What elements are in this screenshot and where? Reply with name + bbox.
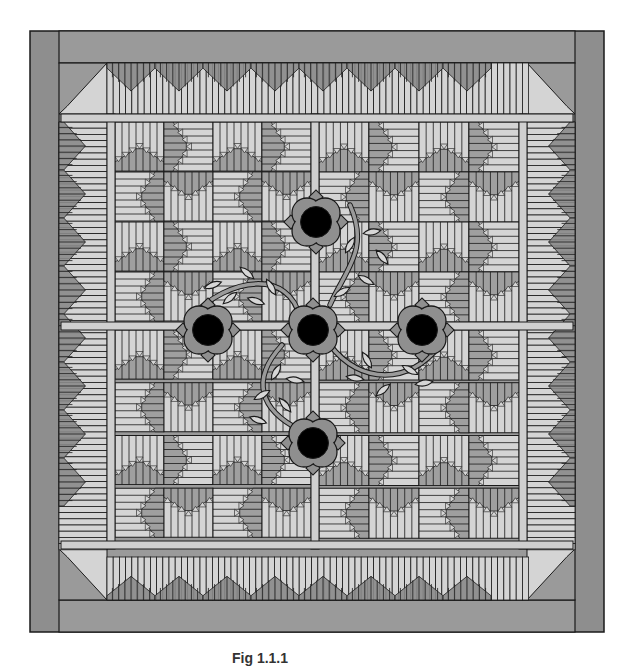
log-cabin-block <box>164 172 213 221</box>
flower-center <box>193 315 224 346</box>
log-cabin-block <box>319 122 369 172</box>
log-cabin-block <box>115 436 164 485</box>
log-cabin-block <box>213 172 262 221</box>
log-cabin-block <box>369 383 419 433</box>
flower-center <box>301 207 332 238</box>
log-cabin-block <box>164 436 213 485</box>
log-cabin-block <box>213 383 262 432</box>
log-cabin-block <box>469 488 519 538</box>
log-cabin-block <box>319 488 369 538</box>
log-cabin-block <box>369 122 419 172</box>
log-cabin-block <box>469 222 519 272</box>
log-cabin-block <box>213 222 262 271</box>
log-cabin-block <box>164 222 213 271</box>
log-cabin-block <box>419 436 469 486</box>
log-cabin-block <box>262 488 311 537</box>
log-cabin-block <box>419 122 469 172</box>
log-cabin-block <box>213 122 262 171</box>
log-cabin-block <box>419 222 469 272</box>
log-cabin-block <box>469 172 519 222</box>
flower-center <box>298 428 329 459</box>
log-cabin-block <box>469 436 519 486</box>
log-cabin-block <box>369 172 419 222</box>
log-cabin-block <box>115 222 164 271</box>
figure-caption: Fig 1.1.1 <box>232 650 288 666</box>
border-strip-top <box>59 31 575 63</box>
log-cabin-block <box>164 383 213 432</box>
log-cabin-block <box>469 122 519 172</box>
flower-center <box>407 315 438 346</box>
sashing-horizontal <box>61 114 573 122</box>
log-cabin-block <box>419 383 469 433</box>
border-strip-bottom <box>59 600 575 632</box>
log-cabin-block <box>262 122 311 171</box>
log-cabin-block <box>213 436 262 485</box>
log-cabin-block <box>369 436 419 486</box>
log-cabin-block <box>164 488 213 537</box>
log-cabin-block <box>469 330 519 380</box>
log-cabin-block <box>419 488 469 538</box>
log-cabin-block <box>115 122 164 171</box>
sashing-horizontal <box>61 541 573 549</box>
log-cabin-block <box>115 330 164 379</box>
log-cabin-block <box>115 383 164 432</box>
log-cabin-block <box>115 272 164 321</box>
log-cabin-block <box>469 383 519 433</box>
log-cabin-block <box>419 172 469 222</box>
log-cabin-block <box>164 122 213 171</box>
flower-center <box>298 315 329 346</box>
log-cabin-block <box>369 488 419 538</box>
sashing-vertical <box>519 114 527 549</box>
sashing-vertical <box>107 114 115 549</box>
log-cabin-block <box>115 172 164 221</box>
log-cabin-block <box>469 272 519 322</box>
log-cabin-block <box>213 488 262 537</box>
log-cabin-block <box>115 488 164 537</box>
